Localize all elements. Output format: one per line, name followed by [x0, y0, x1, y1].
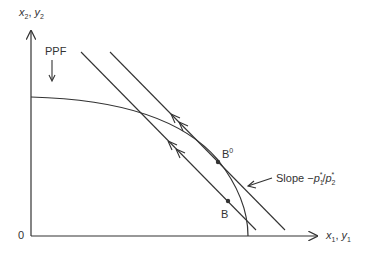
slope-label: Slope −p1*/p2*	[276, 171, 334, 186]
point-b-label: B	[221, 209, 228, 220]
outer-price-line	[110, 52, 285, 230]
slope-pointer-arrow	[248, 178, 272, 186]
point-b0-dot	[216, 160, 220, 164]
y-axis-label: x2, y2	[19, 7, 44, 20]
x-axis-label: x1, y1	[326, 230, 351, 243]
point-b0-label: B0	[222, 147, 233, 160]
ppf-label: PPF	[45, 46, 66, 57]
ppf-diagram	[0, 0, 370, 255]
point-b-dot	[226, 199, 230, 203]
ppf-curve	[31, 97, 248, 236]
origin-label: 0	[18, 230, 24, 241]
